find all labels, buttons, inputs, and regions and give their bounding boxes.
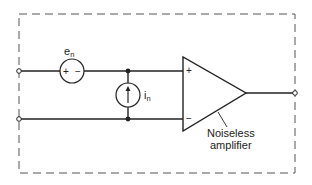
voltage-noise-source: + − en <box>60 45 84 83</box>
inverting-symbol: − <box>186 113 192 124</box>
noninverting-symbol: + <box>186 65 192 76</box>
amplifier-label-line2: amplifier <box>210 139 252 151</box>
input-terminal-bottom <box>17 117 22 122</box>
junction-dot-top <box>126 69 131 74</box>
in-label: in <box>144 89 151 103</box>
noise-model-diagram: + − en in + − Noiseless amplifier <box>0 0 312 185</box>
en-label: en <box>64 45 74 59</box>
label-leader-line <box>218 112 227 127</box>
plus-sign: + <box>63 66 69 77</box>
input-terminal-top <box>17 69 22 74</box>
junction-dot-bottom <box>126 117 131 122</box>
output-terminal <box>293 91 298 96</box>
current-noise-source: in <box>116 71 151 119</box>
amplifier-label-line1: Noiseless <box>207 127 255 139</box>
minus-sign: − <box>75 66 81 77</box>
noiseless-amplifier: + − Noiseless amplifier <box>183 57 255 151</box>
